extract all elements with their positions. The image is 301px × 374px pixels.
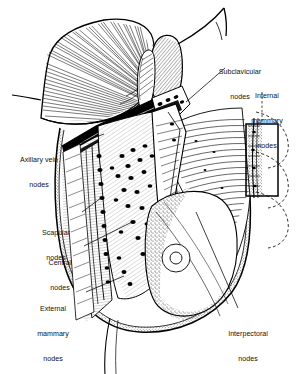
nipple (170, 252, 182, 264)
areola (162, 244, 190, 272)
label-interpectoral-nodes-line2: nodes (215, 355, 281, 363)
label-interpectoral-nodes-line1: Interpectoral (215, 330, 281, 338)
label-external-mammary-nodes: External mammary nodes (22, 289, 84, 374)
label-external-mammary-nodes-line2: mammary (22, 330, 84, 338)
label-internal-mammary-nodes-line1: Internal (236, 92, 298, 100)
label-external-mammary-nodes-line3: nodes (22, 355, 84, 363)
label-central-nodes-line1: Central (37, 259, 83, 267)
label-internal-mammary-nodes-line2: mammary (236, 117, 298, 125)
label-scapular-nodes-line1: Scapular (31, 229, 81, 237)
label-external-mammary-nodes-line1: External (22, 305, 84, 313)
label-axillary-vein-nodes: Axillary vein nodes (8, 140, 70, 206)
label-internal-mammary-nodes-line3: nodes (236, 142, 298, 150)
label-interpectoral-nodes: Interpectoral nodes (215, 314, 281, 374)
label-axillary-vein-nodes-line2: nodes (8, 181, 70, 189)
anatomical-figure: Subclavicular nodes Internal mammary nod… (0, 0, 301, 374)
label-axillary-vein-nodes-line1: Axillary vein (8, 156, 70, 164)
label-internal-mammary-nodes: Internal mammary nodes (236, 76, 298, 166)
